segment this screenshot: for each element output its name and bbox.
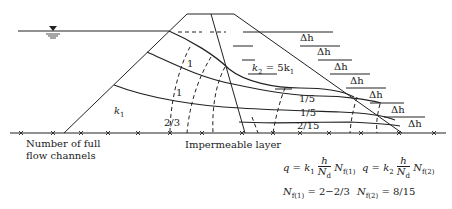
equation-q1: q = k1 hNd Nf(1) [283, 156, 356, 181]
equation-q2: q = k2 hNd Nf(2) [362, 156, 435, 181]
water-level-icon [46, 26, 60, 38]
channel-number: 2/3 [164, 117, 180, 129]
head-drop-label: Δh [391, 104, 405, 116]
head-drop-label: Δh [317, 46, 331, 58]
channel-number: 1 [176, 87, 182, 99]
channel-number: 1 [187, 58, 193, 70]
equation-nf2: Nf(2) = 8/15 [357, 186, 415, 200]
k1-label: k1 [114, 105, 125, 121]
head-drop-label: Δh [334, 61, 348, 73]
k2-label: k2 = 5k1 [252, 62, 294, 78]
channel-number: 1/5 [299, 93, 315, 105]
channel-number: 1/5 [300, 107, 316, 119]
head-drop-label: Δh [350, 75, 364, 87]
channel-number: 2/15 [297, 120, 319, 132]
fraction: hNd [397, 156, 410, 181]
head-drop-label: Δh [300, 32, 314, 44]
head-drop-label: Δh [408, 118, 422, 130]
flow-lines [60, 31, 400, 135]
flow-channels-label: Number of full flow channels [26, 138, 94, 162]
core-boundary [211, 14, 245, 133]
head-drop-label: Δh [369, 89, 383, 101]
equipotential-lines [170, 32, 380, 133]
fraction: hNd [318, 156, 331, 181]
impermeable-layer-label: Impermeable layer [185, 139, 281, 151]
equation-nf1: Nf(1) = 2−2/3 [283, 186, 350, 200]
